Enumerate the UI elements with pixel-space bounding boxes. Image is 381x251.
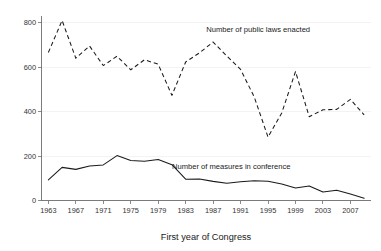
y-tick-label-200: 200	[24, 152, 36, 161]
x-tick-label-1991: 1991	[232, 206, 248, 215]
x-tick-label-2003: 2003	[315, 206, 331, 215]
y-tick-label-400: 400	[24, 107, 36, 116]
series-line-public-laws	[48, 20, 364, 137]
series-annotation-group: Number of public laws enactedNumber of m…	[172, 25, 310, 172]
series-annotation-0: Number of public laws enacted	[206, 25, 310, 34]
x-axis-title: First year of Congress	[161, 232, 252, 242]
y-tick-label-600: 600	[24, 63, 36, 72]
chart-figure: 0200400600800 19631967197119751979198319…	[0, 0, 381, 251]
x-tick-label-1995: 1995	[260, 206, 276, 215]
y-tick-label-0: 0	[32, 196, 36, 205]
x-tick-label-1963: 1963	[40, 206, 56, 215]
y-tick-label-800: 800	[24, 18, 36, 27]
x-tick-label-1979: 1979	[150, 206, 166, 215]
x-tick-label-1987: 1987	[205, 206, 221, 215]
y-tick-group: 0200400600800	[24, 18, 42, 205]
x-tick-label-2007: 2007	[342, 206, 358, 215]
x-tick-label-1983: 1983	[177, 206, 193, 215]
series-annotation-1: Number of measures in conference	[172, 162, 291, 171]
gridline-group	[42, 23, 372, 201]
x-tick-label-1999: 1999	[287, 206, 303, 215]
line-chart: 0200400600800 19631967197119751979198319…	[0, 0, 381, 251]
x-tick-label-1971: 1971	[95, 206, 111, 215]
x-tick-group: 1963196719711975197919831987199119951999…	[40, 201, 358, 216]
x-tick-label-1975: 1975	[123, 206, 139, 215]
x-tick-label-1967: 1967	[68, 206, 84, 215]
